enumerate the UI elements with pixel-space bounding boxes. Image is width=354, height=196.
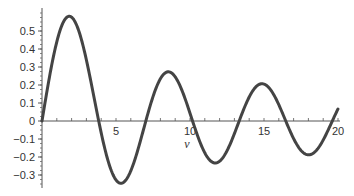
y-axis: 0.50.40.30.20.10−0.1−0.2−0.3 (13, 8, 42, 188)
x-tick-label: 20 (332, 125, 344, 137)
y-tick-label: 0.1 (20, 97, 35, 109)
series-line (42, 16, 338, 183)
y-tick-label: 0.5 (20, 25, 35, 37)
x-tick-label: 15 (258, 125, 270, 137)
y-tick-label: 0 (29, 115, 35, 127)
series-layer (42, 16, 338, 183)
x-tick-label: 5 (113, 125, 119, 137)
y-tick-label: 0.2 (20, 79, 35, 91)
y-tick-label: −0.3 (13, 169, 35, 181)
x-axis-label: v (184, 137, 190, 151)
y-tick-label: 0.3 (20, 61, 35, 73)
y-tick-label: 0.4 (20, 43, 35, 55)
line-chart: 0.50.40.30.20.10−0.1−0.2−0.3 5101520 v (0, 0, 354, 196)
y-tick-label: −0.1 (13, 133, 35, 145)
y-tick-label: −0.2 (13, 151, 35, 163)
